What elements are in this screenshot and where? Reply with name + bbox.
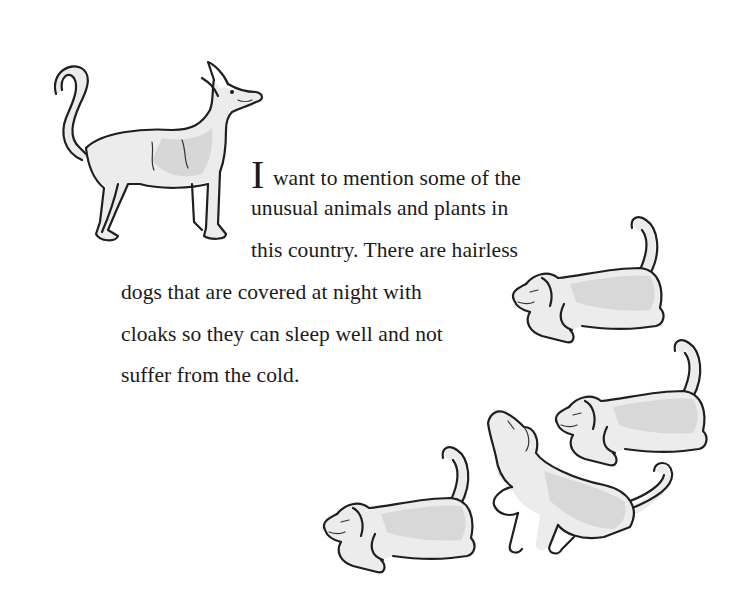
- passage-line-3: this country. There are hairless: [251, 240, 518, 262]
- book-page: I want to mention some of the unusual an…: [0, 0, 747, 616]
- passage-line-5: cloaks so they can sleep well and not: [121, 324, 443, 346]
- crouching-dog-lower-left: [306, 442, 496, 592]
- passage-line-2: unusual animals and plants in: [251, 198, 508, 220]
- standing-dog-illustration: [42, 52, 272, 252]
- passage-line-4: dogs that are covered at night with: [121, 282, 422, 304]
- passage-line-1: I want to mention some of the: [251, 155, 521, 195]
- passage-line-6: suffer from the cold.: [121, 365, 299, 387]
- drop-cap: I: [251, 152, 264, 197]
- rearing-dog-illustration: [484, 405, 684, 565]
